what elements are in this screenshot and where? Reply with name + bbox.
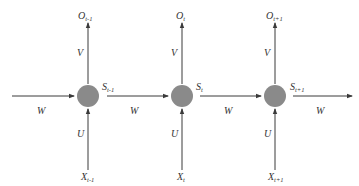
in-weight-label: U <box>264 128 272 139</box>
in-weight-label: U <box>77 128 85 139</box>
in-weight-label: U <box>171 128 179 139</box>
output-label: Ot-1 <box>78 10 92 22</box>
input-label: Xt <box>176 171 185 183</box>
hidden-state-node <box>171 85 193 107</box>
state-label: St+1 <box>290 81 304 93</box>
out-weight-label: V <box>77 47 85 58</box>
weight-label-w: W <box>37 105 47 116</box>
input-label: Xt+1 <box>267 171 284 183</box>
hidden-state-node <box>77 85 99 107</box>
input-label: Xt-1 <box>80 171 94 183</box>
output-label: Ot+1 <box>266 10 283 22</box>
output-label: Ot <box>176 10 185 22</box>
out-weight-label: V <box>264 47 272 58</box>
weight-label-w: W <box>316 105 326 116</box>
weight-label-w: W <box>130 105 140 116</box>
rnn-diagram: W W W W Ot-1 V St-1 U Xt-1 Ot V St U Xt … <box>0 0 359 186</box>
state-label: St <box>196 81 203 93</box>
rnn-cell-t: Ot V St U Xt <box>171 10 203 183</box>
weight-label-w: W <box>224 105 234 116</box>
out-weight-label: V <box>171 47 179 58</box>
state-label: St-1 <box>102 81 114 93</box>
hidden-state-node <box>264 85 286 107</box>
